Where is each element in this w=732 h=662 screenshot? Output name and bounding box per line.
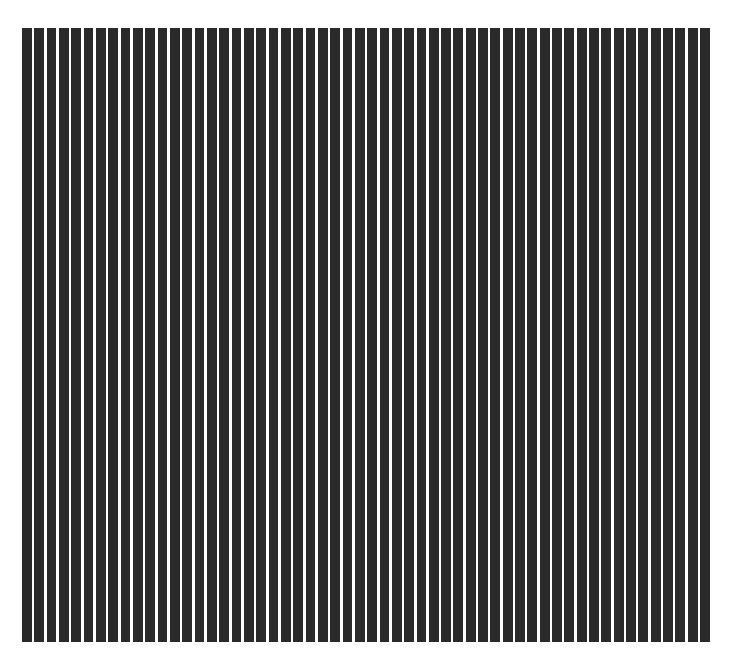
stripe	[343, 28, 353, 642]
stripe	[688, 28, 698, 642]
stripe	[515, 28, 525, 642]
stripe	[490, 28, 500, 642]
stripe	[552, 28, 562, 642]
stripe	[453, 28, 463, 642]
stripe	[466, 28, 476, 642]
stripe	[638, 28, 648, 642]
vertical-stripe-pattern	[22, 28, 710, 642]
stripe	[614, 28, 624, 642]
stripe	[392, 28, 402, 642]
stripe	[22, 28, 32, 642]
stripe	[96, 28, 106, 642]
stripe	[34, 28, 44, 642]
stripe	[306, 28, 316, 642]
stripe	[133, 28, 143, 642]
stripe	[219, 28, 229, 642]
stripe	[441, 28, 451, 642]
stripe	[293, 28, 303, 642]
stripe	[121, 28, 131, 642]
stripe	[478, 28, 488, 642]
stripe	[195, 28, 205, 642]
stripe	[589, 28, 599, 642]
stripe	[663, 28, 673, 642]
stripe	[207, 28, 217, 642]
stripe	[429, 28, 439, 642]
stripe	[577, 28, 587, 642]
stripe	[244, 28, 254, 642]
stripe	[404, 28, 414, 642]
stripe	[330, 28, 340, 642]
stripe	[355, 28, 365, 642]
stripe	[59, 28, 69, 642]
stripe	[540, 28, 550, 642]
stripe	[700, 28, 710, 642]
stripe	[158, 28, 168, 642]
stripe	[675, 28, 685, 642]
stripe	[601, 28, 611, 642]
stripe	[318, 28, 328, 642]
stripe	[182, 28, 192, 642]
stripe	[527, 28, 537, 642]
stripe	[281, 28, 291, 642]
stripe	[367, 28, 377, 642]
stripe	[170, 28, 180, 642]
stripe	[564, 28, 574, 642]
stripe	[71, 28, 81, 642]
stripe	[145, 28, 155, 642]
stripe	[417, 28, 427, 642]
stripe	[651, 28, 661, 642]
stripe	[269, 28, 279, 642]
stripe	[626, 28, 636, 642]
stripe	[108, 28, 118, 642]
stripe	[47, 28, 57, 642]
stripe	[84, 28, 94, 642]
stripe	[256, 28, 266, 642]
stripe	[232, 28, 242, 642]
stripe	[503, 28, 513, 642]
stripe	[380, 28, 390, 642]
